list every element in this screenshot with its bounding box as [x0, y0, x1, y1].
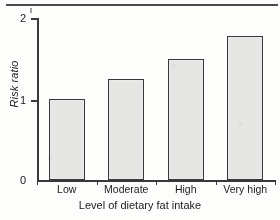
x-axis-tick	[275, 180, 276, 185]
bar	[227, 36, 263, 180]
scan-artifact-mark	[30, 8, 32, 13]
scan-artifact-line	[6, 4, 278, 6]
bar	[49, 99, 85, 180]
y-axis-tick-label-0: 0	[0, 175, 26, 186]
x-axis-category-label: Low	[37, 184, 97, 196]
bar	[168, 59, 204, 181]
x-axis-title: Level of dietary fat intake	[0, 199, 280, 211]
x-axis-category-label: Very high	[216, 184, 276, 196]
plot-area	[37, 18, 275, 180]
bar-chart-figure: 2 1 0 Risk ratio LowModerateHighVery hig…	[0, 0, 280, 220]
x-axis-tick	[37, 180, 38, 185]
y-axis-title: Risk ratio	[8, 44, 20, 124]
bar	[108, 79, 144, 180]
x-axis-category-label: High	[156, 184, 216, 196]
y-axis-tick-label-2: 2	[0, 13, 26, 24]
x-axis-category-label: Moderate	[97, 184, 157, 196]
